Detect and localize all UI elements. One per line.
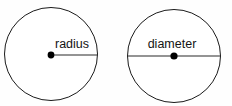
circle-parts-diagram: radius diameter	[0, 0, 232, 106]
radius-figure-group: radius	[5, 8, 99, 101]
radius-label: radius	[55, 37, 89, 51]
radius-center-dot	[48, 52, 55, 59]
diameter-figure-group: diameter	[128, 10, 221, 103]
diameter-label: diameter	[148, 37, 197, 51]
diameter-center-dot	[170, 52, 177, 59]
diagram-canvas: radius diameter	[0, 0, 232, 106]
